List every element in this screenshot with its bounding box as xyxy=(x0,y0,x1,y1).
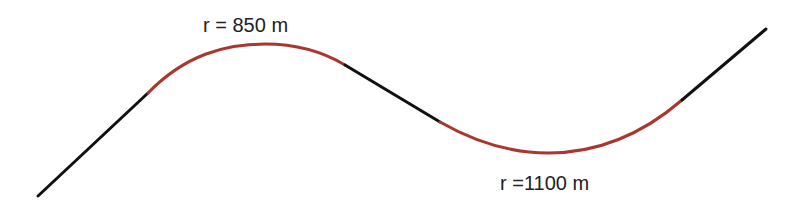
curve-segment-r850 xyxy=(148,44,345,93)
tangent-segment-2 xyxy=(345,65,440,122)
curve-radius-label-2: r =1100 m xyxy=(500,172,589,195)
tangent-segment-3 xyxy=(682,29,766,100)
alignment-diagram xyxy=(0,0,809,204)
tangent-segment-1 xyxy=(38,93,148,196)
curve-segment-r1100 xyxy=(440,100,682,153)
curve-radius-label-1: r = 850 m xyxy=(203,14,288,37)
